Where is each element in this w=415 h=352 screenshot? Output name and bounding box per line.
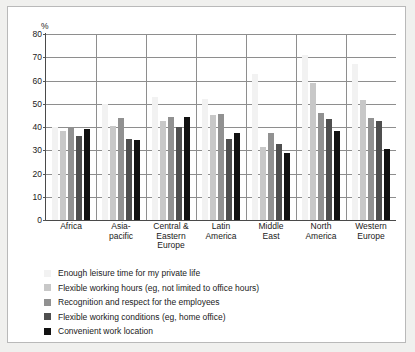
legend-swatch-icon — [44, 284, 51, 291]
bar — [234, 133, 240, 220]
bar — [152, 97, 158, 220]
legend-swatch-icon — [44, 313, 51, 320]
bar — [184, 117, 190, 220]
bar — [360, 100, 366, 220]
legend-item: Recognition and respect for the employee… — [44, 295, 259, 310]
bar — [76, 136, 82, 220]
bar — [118, 118, 124, 220]
bar — [260, 147, 266, 220]
plot-area: 80706050403020100 — [46, 34, 396, 220]
bar — [134, 140, 140, 220]
bar — [376, 121, 382, 220]
legend-item: Enough leisure time for my private life — [44, 266, 259, 281]
bar — [210, 115, 216, 220]
bar — [384, 149, 390, 220]
bar — [60, 131, 66, 221]
bar-group — [146, 34, 196, 220]
bar-group — [46, 34, 96, 220]
bar-group — [196, 34, 246, 220]
legend-swatch-icon — [44, 299, 51, 306]
bar — [318, 113, 324, 220]
x-axis-labels: AfricaAsia- pacificCentral & Eastern Eur… — [46, 222, 396, 251]
x-axis-category-label: Asia- pacific — [96, 222, 146, 251]
bar — [268, 133, 274, 220]
bar-group — [246, 34, 296, 220]
y-axis-tick-label: 40 — [33, 122, 42, 132]
bar — [160, 121, 166, 220]
bar — [168, 117, 174, 220]
legend-swatch-icon — [44, 328, 51, 335]
bar — [84, 129, 90, 220]
y-axis-tick-label: 50 — [33, 99, 42, 109]
y-axis-tick-label: 70 — [33, 52, 42, 62]
bar — [302, 55, 308, 220]
bar — [326, 119, 332, 220]
y-axis-unit-label: % — [41, 21, 49, 31]
legend-swatch-icon — [44, 270, 51, 277]
bar — [102, 104, 108, 220]
legend-item-label: Recognition and respect for the employee… — [58, 297, 220, 307]
bar — [352, 64, 358, 220]
legend-item: Convenient work location — [44, 324, 259, 339]
legend-item-label: Enough leisure time for my private life — [58, 268, 200, 278]
bar-group — [96, 34, 146, 220]
legend-item-label: Convenient work location — [58, 326, 153, 336]
x-axis-category-label: Latin America — [196, 222, 246, 251]
y-axis-tick-mark — [43, 220, 46, 221]
bar — [226, 139, 232, 220]
x-axis-category-label: Middle East — [246, 222, 296, 251]
bar — [68, 128, 74, 220]
x-axis-category-label: Central & Eastern Europe — [146, 222, 196, 251]
bar — [284, 153, 290, 220]
bar — [252, 74, 258, 220]
y-axis-tick-label: 10 — [33, 192, 42, 202]
bar — [126, 139, 132, 220]
x-axis-category-label: Africa — [46, 222, 96, 251]
bar — [310, 83, 316, 220]
chart-legend: Enough leisure time for my private lifeF… — [44, 266, 259, 339]
bar — [276, 144, 282, 220]
legend-item-label: Flexible working hours (eg, not limited … — [58, 283, 259, 293]
y-axis-tick-label: 80 — [33, 29, 42, 39]
bar-group — [346, 34, 396, 220]
y-axis-tick-label: 30 — [33, 145, 42, 155]
legend-item-label: Flexible working conditions (eg, home of… — [58, 312, 226, 322]
x-axis-category-label: North America — [296, 222, 346, 251]
bar-group — [296, 34, 346, 220]
chart-figure: % 80706050403020100 AfricaAsia- pacificC… — [7, 6, 406, 343]
legend-item: Flexible working conditions (eg, home of… — [44, 310, 259, 325]
bar — [368, 118, 374, 220]
y-axis-tick-label: 20 — [33, 169, 42, 179]
bar — [202, 99, 208, 220]
x-axis-category-label: Western Europe — [346, 222, 396, 251]
y-axis-tick-label: 60 — [33, 76, 42, 86]
bar-groups — [46, 34, 396, 220]
y-axis-tick-label: 0 — [37, 215, 42, 225]
legend-item: Flexible working hours (eg, not limited … — [44, 281, 259, 296]
bar — [334, 131, 340, 221]
bar — [110, 126, 116, 220]
bar — [218, 114, 224, 220]
bar — [52, 127, 58, 220]
bar — [176, 127, 182, 220]
